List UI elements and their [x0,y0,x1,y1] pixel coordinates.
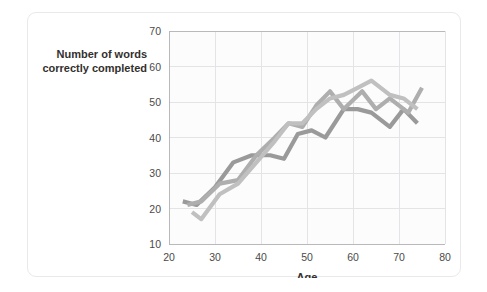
figure-root: 10203040506070 20304050607080 Number of … [0,0,487,292]
x-tick-label: 20 [163,251,175,263]
y-axis-title: Number of words correctly completed [42,48,147,74]
y-tick-label: 20 [149,203,161,215]
y-tick-label: 60 [149,61,161,73]
y-tick-label: 50 [149,96,161,108]
y-tick-label: 10 [149,238,161,250]
y-tick-label: 70 [149,25,161,37]
y-axis-tick-labels: 10203040506070 [149,25,161,250]
x-axis-title: Age [297,271,318,278]
line-chart: 10203040506070 20304050607080 Number of … [28,13,462,278]
x-tick-label: 60 [347,251,359,263]
y-axis-title-line-1: Number of words [57,48,147,60]
x-tick-label: 70 [393,251,405,263]
x-tick-label: 40 [255,251,267,263]
x-axis-tick-labels: 20304050607080 [163,251,451,263]
x-tick-label: 50 [301,251,313,263]
y-tick-label: 40 [149,132,161,144]
chart-area: 10203040506070 20304050607080 Number of … [28,13,462,278]
y-tick-label: 30 [149,167,161,179]
x-tick-label: 80 [439,251,451,263]
y-axis-title-line-2: correctly completed [42,62,147,74]
x-tick-label: 30 [209,251,221,263]
chart-card: 10203040506070 20304050607080 Number of … [27,12,461,277]
